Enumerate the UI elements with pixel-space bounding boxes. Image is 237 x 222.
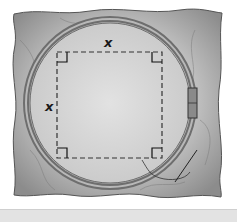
label-top-side: x <box>103 35 113 50</box>
label-left-side: x <box>44 99 54 114</box>
diagram: x x <box>0 0 237 222</box>
bottom-strip <box>0 209 237 222</box>
